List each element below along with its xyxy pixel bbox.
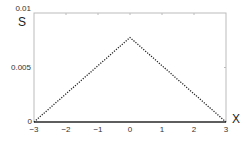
x-axis-label: X: [232, 112, 240, 126]
xtick--2: −2: [61, 125, 71, 134]
xtick-0: 0: [128, 125, 133, 134]
xtick--3: −3: [29, 125, 39, 134]
y-axis-label: S: [18, 15, 26, 29]
series-s: [34, 38, 226, 123]
chart: 0.01 0.005 0 −3 −2 −1 0 1 2 3 S X: [0, 0, 252, 141]
ytick-0.005: 0.005: [11, 63, 32, 72]
xtick-1: 1: [160, 125, 165, 134]
ytick-0.01: 0.01: [15, 4, 31, 13]
top-ticks: [66, 13, 226, 68]
plot-frame: [34, 13, 226, 122]
xtick-3: 3: [224, 125, 229, 134]
xtick--1: −1: [93, 125, 103, 134]
xtick-2: 2: [192, 125, 197, 134]
